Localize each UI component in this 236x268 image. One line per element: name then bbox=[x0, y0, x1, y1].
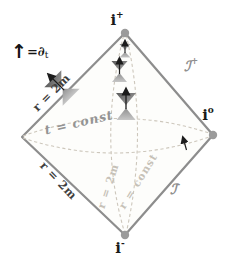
scri-minus-sup: - bbox=[177, 179, 181, 189]
i-minus-base: i bbox=[115, 239, 121, 257]
scri-plus-base: ℐ bbox=[184, 58, 191, 74]
i-zero-sup: o bbox=[208, 105, 214, 115]
penrose-diagram: ↑=∂t i+ io i- ℐ+ ℐ- r = 2m r = 2m t = co… bbox=[0, 0, 236, 268]
legend-text: =∂ bbox=[27, 44, 45, 59]
scri-minus-label: ℐ- bbox=[170, 182, 181, 197]
killing-vector-legend: ↑=∂t bbox=[11, 40, 48, 62]
i-plus-dot bbox=[121, 29, 129, 37]
legend-subscript: t bbox=[45, 50, 49, 60]
i-minus-label: i- bbox=[115, 240, 124, 256]
i-plus-base: i bbox=[110, 11, 116, 29]
i-minus-sup: - bbox=[121, 238, 125, 248]
up-arrow-icon: ↑ bbox=[11, 40, 27, 62]
i-plus-sup: + bbox=[116, 10, 124, 20]
scri-plus-label: ℐ+ bbox=[184, 59, 198, 74]
scri-plus-sup: + bbox=[191, 56, 198, 66]
i-zero-label: io bbox=[202, 107, 214, 123]
i-zero-dot bbox=[209, 131, 217, 139]
i-zero-base: i bbox=[202, 106, 208, 124]
scri-minus-base: ℐ bbox=[170, 181, 177, 197]
i-plus-label: i+ bbox=[110, 12, 123, 28]
